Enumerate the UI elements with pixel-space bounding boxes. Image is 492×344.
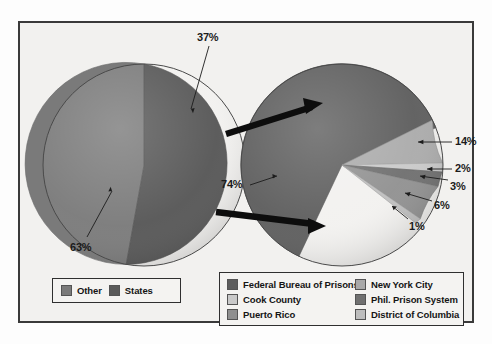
label-right-puerto-rico-pct: 6% bbox=[434, 199, 450, 211]
label-right-dc-pct: 1% bbox=[409, 220, 425, 232]
label-right-phil-pct: 3% bbox=[450, 180, 466, 192]
legend-swatch-other bbox=[61, 285, 72, 296]
right-pie-group bbox=[241, 64, 443, 266]
legend-item-other[interactable]: Other bbox=[61, 285, 102, 296]
legend-label-phil-prison-system: Phil. Prison System bbox=[371, 294, 458, 305]
legend-swatch-cook-county bbox=[227, 294, 238, 305]
label-left-states-pct: 37% bbox=[197, 31, 218, 43]
legend-swatch-puerto-rico bbox=[227, 309, 238, 320]
legend-label-cook-county: Cook County bbox=[243, 294, 301, 305]
legend-right: Federal Bureau of Prisons New York City … bbox=[219, 272, 464, 326]
chart-panel: 37% 63% 74% 14% 2% 3% 6% 1% Other States bbox=[18, 21, 474, 323]
legend-item-federal-bureau-of-prisons[interactable]: Federal Bureau of Prisons bbox=[227, 279, 355, 290]
legend-item-states[interactable]: States bbox=[109, 285, 153, 296]
legend-item-new-york-city[interactable]: New York City bbox=[355, 279, 465, 290]
legend-left: Other States bbox=[52, 278, 181, 303]
legend-label-federal-bureau-of-prisons: Federal Bureau of Prisons bbox=[243, 279, 359, 290]
legend-label-other: Other bbox=[77, 285, 102, 296]
legend-swatch-federal-bureau-of-prisons bbox=[227, 279, 238, 290]
label-left-other-pct: 63% bbox=[70, 241, 91, 253]
legend-item-cook-county[interactable]: Cook County bbox=[227, 294, 355, 305]
label-right-nyc-pct: 14% bbox=[455, 135, 476, 147]
right-pie-sheen bbox=[241, 64, 443, 266]
legend-swatch-district-of-columbia bbox=[355, 309, 366, 320]
legend-swatch-states bbox=[109, 285, 120, 296]
label-right-cook-pct: 2% bbox=[455, 162, 471, 174]
legend-label-puerto-rico: Puerto Rico bbox=[243, 309, 295, 320]
legend-swatch-phil-prison-system bbox=[355, 294, 366, 305]
legend-item-district-of-columbia[interactable]: District of Columbia bbox=[355, 309, 465, 320]
legend-label-district-of-columbia: District of Columbia bbox=[371, 309, 459, 320]
legend-label-new-york-city: New York City bbox=[371, 279, 433, 290]
chart-screenshot: 37% 63% 74% 14% 2% 3% 6% 1% Other States bbox=[0, 0, 492, 344]
left-pie-group bbox=[25, 62, 245, 266]
legend-label-states: States bbox=[125, 285, 153, 296]
label-right-federal-pct: 74% bbox=[221, 178, 242, 190]
legend-item-phil-prison-system[interactable]: Phil. Prison System bbox=[355, 294, 465, 305]
left-pie-sheen bbox=[43, 64, 245, 266]
legend-item-puerto-rico[interactable]: Puerto Rico bbox=[227, 309, 355, 320]
legend-swatch-new-york-city bbox=[355, 279, 366, 290]
